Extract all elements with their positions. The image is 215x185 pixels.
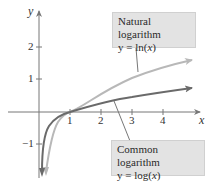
common-callout-leader	[114, 101, 130, 141]
natural-log-equation: y = ln(x)	[118, 41, 190, 54]
x-tick-label-2: 2	[98, 114, 104, 126]
y-tick-label-2: 2	[28, 40, 34, 52]
y-tick-label-neg1: −1	[22, 137, 34, 149]
common-log-callout: Common logarithm y = log(x)	[111, 140, 205, 176]
y-tick-label-1: 1	[28, 72, 34, 84]
common-log-equation: y = log(x)	[117, 169, 199, 182]
natural-log-title: Natural logarithm	[118, 15, 190, 41]
x-axis-label: x	[199, 113, 204, 128]
x-tick-label-4: 4	[160, 114, 166, 126]
chart-root: y x 1 2 3 4 2 1 −1 Natural logarithm y =…	[0, 0, 215, 185]
x-tick-label-3: 3	[129, 114, 135, 126]
common-log-title: Common logarithm	[117, 143, 199, 169]
natural-log-callout: Natural logarithm y = ln(x)	[112, 12, 196, 48]
x-tick-label-1: 1	[67, 114, 73, 126]
log-curve-down-arrow	[39, 168, 45, 177]
y-axis-label: y	[28, 4, 33, 19]
